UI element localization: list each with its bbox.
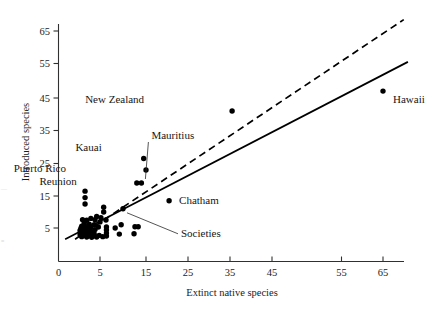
data-point: [117, 231, 122, 236]
x-axis-title: Extinct native species: [186, 287, 278, 298]
data-point: [92, 217, 97, 222]
annotation-mauritius: Mauritius: [151, 129, 194, 141]
scatter-plot-figure: 515253545556505152535455565 HawaiiNew Ze…: [0, 0, 425, 315]
data-point-chatham: [166, 198, 171, 203]
scan-artifact-top: —: [1, 186, 7, 193]
annotation-hawaii: Hawaii: [393, 93, 425, 105]
x-tick-label-0: 0: [56, 267, 61, 278]
plot-canvas: 515253545556505152535455565 HawaiiNew Ze…: [0, 0, 425, 315]
data-point: [79, 234, 84, 239]
data-point: [135, 224, 140, 229]
x-tick-label-35: 35: [225, 267, 236, 278]
trend-line-layer: [65, 20, 408, 240]
data-point-new-zealand: [229, 108, 234, 113]
data-point: [82, 201, 87, 206]
y-tick-label-55: 55: [40, 58, 51, 69]
data-point: [84, 234, 89, 239]
data-point: [97, 219, 102, 224]
data-point: [101, 209, 106, 214]
data-point-kauai: [141, 156, 146, 161]
y-tick-label-65: 65: [40, 26, 51, 37]
annotation-kauai: Kauai: [75, 141, 101, 153]
data-point: [131, 231, 136, 236]
x-tick-label-5: 5: [97, 267, 102, 278]
x-tick-label-45: 45: [267, 267, 278, 278]
data-point-hawaii: [380, 88, 385, 93]
reference-line: [75, 20, 404, 240]
data-point: [112, 225, 117, 230]
regression-line: [65, 62, 408, 239]
data-point: [101, 205, 106, 210]
x-tick-label-55: 55: [336, 267, 347, 278]
data-point: [104, 233, 109, 238]
y-tick-label-45: 45: [40, 93, 51, 104]
y-tick-label-15: 15: [40, 191, 51, 202]
data-point: [82, 188, 87, 193]
annotation-reunion: Reunion: [40, 175, 78, 187]
y-axis-title: Introduced species: [20, 103, 31, 181]
scan-artifact-bottom: ≡: [1, 238, 4, 245]
x-tick-label-65: 65: [378, 267, 389, 278]
x-tick-label-15: 15: [141, 267, 152, 278]
annotation-societies: Societies: [181, 227, 221, 239]
data-point: [103, 217, 108, 222]
annotation-chatham: Chatham: [179, 194, 219, 206]
annotation-new-zealand: New Zealand: [85, 93, 144, 105]
x-tick-label-25: 25: [183, 267, 194, 278]
leader-mauritius: [145, 142, 148, 179]
data-point: [94, 234, 99, 239]
data-point: [89, 235, 94, 240]
data-point: [82, 195, 87, 200]
data-point: [118, 222, 123, 227]
annotation-layer: HawaiiNew ZealandKauaiMauritiusPuerto Ri…: [14, 93, 425, 239]
y-tick-label-5: 5: [45, 223, 50, 234]
data-point-layer: [77, 88, 385, 240]
data-point-societies: [120, 206, 125, 211]
data-point-mauritius: [139, 180, 144, 185]
y-tick-label-35: 35: [40, 125, 51, 136]
leader-societies: [127, 213, 178, 234]
data-point-reunion: [134, 180, 139, 185]
